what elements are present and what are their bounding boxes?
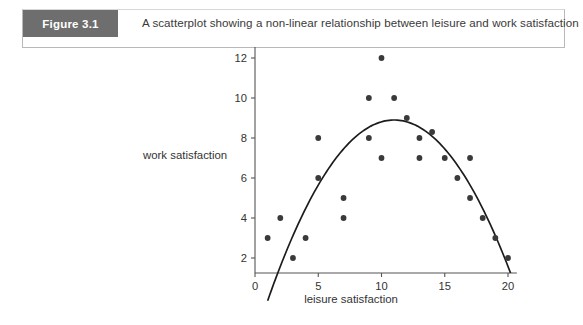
data-point — [341, 195, 347, 201]
data-point — [467, 155, 473, 161]
data-point — [366, 95, 372, 101]
data-point — [417, 135, 423, 141]
data-point — [492, 235, 498, 241]
data-point — [442, 155, 448, 161]
data-point — [505, 255, 511, 261]
data-point — [417, 155, 423, 161]
data-point — [467, 195, 473, 201]
data-points-group — [265, 55, 511, 261]
data-point — [455, 175, 461, 181]
data-point — [315, 175, 321, 181]
data-point — [404, 115, 410, 121]
plot-canvas — [0, 0, 583, 325]
data-point — [341, 215, 347, 221]
data-point — [480, 215, 486, 221]
data-point — [265, 235, 271, 241]
trend-curve — [268, 120, 511, 301]
data-point — [379, 55, 385, 61]
data-point — [429, 129, 435, 135]
data-point — [315, 135, 321, 141]
data-point — [366, 135, 372, 141]
data-point — [303, 235, 309, 241]
data-point — [290, 255, 296, 261]
data-point — [391, 95, 397, 101]
figure-page: Figure 3.1 A scatterplot showing a non-l… — [0, 0, 583, 325]
data-point — [277, 215, 283, 221]
scatterplot-chart: leisure satisfaction work satisfaction 2… — [0, 0, 583, 325]
data-point — [379, 155, 385, 161]
